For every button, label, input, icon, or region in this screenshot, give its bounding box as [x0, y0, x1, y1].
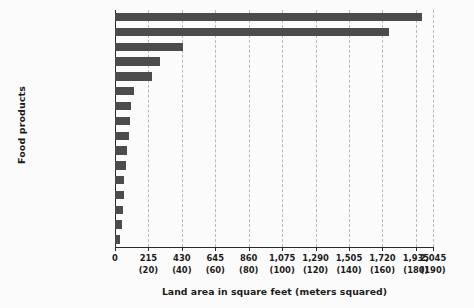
bar-row[interactable] — [115, 158, 433, 173]
bar[interactable] — [115, 220, 122, 228]
plot-area — [115, 10, 433, 247]
bar[interactable] — [115, 117, 130, 125]
x-axis-tick-mark — [249, 247, 250, 251]
bar-row[interactable] — [115, 99, 433, 114]
x-axis-tick-mark — [282, 247, 283, 251]
bar[interactable] — [115, 87, 134, 95]
x-axis-title: Land area in square feet (meters squared… — [115, 286, 434, 297]
bar-row[interactable] — [115, 217, 433, 232]
bar-row[interactable] — [115, 188, 433, 203]
bar[interactable] — [115, 235, 120, 243]
bar-row[interactable] — [115, 40, 433, 55]
bar-row[interactable] — [115, 143, 433, 158]
bar[interactable] — [115, 161, 126, 169]
bar-row[interactable] — [115, 10, 433, 25]
bar-row[interactable] — [115, 114, 433, 129]
x-axis-tick-mark — [182, 247, 183, 251]
bar-row[interactable] — [115, 203, 433, 218]
bar-row[interactable] — [115, 232, 433, 247]
bar[interactable] — [115, 57, 160, 65]
bar[interactable] — [115, 191, 124, 199]
bar-row[interactable] — [115, 129, 433, 144]
bar[interactable] — [115, 102, 131, 110]
bar[interactable] — [115, 13, 422, 21]
x-axis-line — [115, 247, 434, 248]
bar[interactable] — [115, 146, 127, 154]
x-axis-tick-mark — [382, 247, 383, 251]
bar-row[interactable] — [115, 25, 433, 40]
x-axis-tick-mark — [416, 247, 417, 251]
bar[interactable] — [115, 132, 129, 140]
bar-row[interactable] — [115, 69, 433, 84]
x-axis-tick-sublabel: (190) — [403, 265, 463, 275]
bar-row[interactable] — [115, 173, 433, 188]
bar[interactable] — [115, 176, 124, 184]
x-axis-tick-mark — [215, 247, 216, 251]
land-area-bar-chart: Food products Lamb and muttonBeef (beef … — [0, 0, 474, 308]
x-axis-tick-label: 2,045 — [403, 253, 463, 263]
x-axis-tick-mark — [433, 247, 434, 251]
bar-row[interactable] — [115, 54, 433, 69]
x-axis-tick-mark — [349, 247, 350, 251]
bar[interactable] — [115, 72, 152, 80]
y-axis-title: Food products — [14, 0, 30, 250]
bar[interactable] — [115, 43, 183, 51]
bar-row[interactable] — [115, 84, 433, 99]
gridline — [433, 10, 434, 247]
x-axis-tick-mark — [148, 247, 149, 251]
x-axis-tick-mark — [115, 247, 116, 251]
bar[interactable] — [115, 28, 389, 36]
bar[interactable] — [115, 206, 123, 214]
x-axis-tick-mark — [316, 247, 317, 251]
